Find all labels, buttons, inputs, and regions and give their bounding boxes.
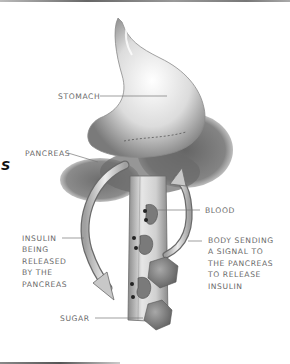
- label-signal: BODY SENDING A SIGNAL TO THE PANCREAS TO…: [208, 235, 274, 292]
- insulin-illustration: [0, 0, 290, 364]
- label-signal-line: INSULIN: [208, 281, 274, 292]
- label-signal-line: TO RELEASE: [208, 269, 274, 280]
- label-insulin-released: INSULIN BEING RELEASED BY THE PANCREAS: [22, 233, 67, 290]
- label-blood: BLOOD: [205, 205, 235, 216]
- label-signal-line: BODY SENDING: [208, 235, 274, 246]
- label-signal-line: A SIGNAL TO: [208, 246, 274, 257]
- diagram-frame: S STOMACH PANCREAS BLOOD BODY SENDING A …: [0, 0, 290, 364]
- title-fragment: S: [1, 158, 10, 173]
- label-insulin-line: INSULIN: [22, 233, 67, 244]
- label-pancreas: PANCREAS: [25, 148, 70, 159]
- label-signal-line: THE PANCREAS: [208, 258, 274, 269]
- label-sugar: SUGAR: [60, 313, 90, 324]
- label-insulin-line: PANCREAS: [22, 279, 67, 290]
- label-stomach: STOMACH: [58, 91, 100, 102]
- stomach-shape: [88, 18, 205, 157]
- label-insulin-line: BEING: [22, 244, 67, 255]
- label-insulin-line: RELEASED: [22, 256, 67, 267]
- label-insulin-line: BY THE: [22, 267, 67, 278]
